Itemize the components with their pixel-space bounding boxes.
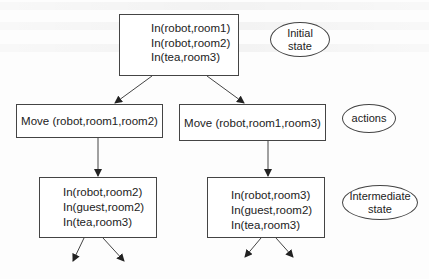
- legend-initial-label: Initial state: [287, 27, 313, 53]
- initial-state-line-3: In(tea,room3): [151, 51, 238, 64]
- edge-state1-out-right: [103, 238, 124, 261]
- edge-state2-out-right: [276, 238, 293, 257]
- intermediate-state-1-line-3: In(tea,room3): [63, 215, 156, 230]
- edge-state2-out-left: [245, 238, 261, 257]
- legend-actions: actions: [342, 104, 396, 133]
- intermediate-state-2-line-1: In(robot,room3): [231, 188, 324, 203]
- action-box-2: Move (robot,room1,room3): [179, 104, 326, 141]
- action-box-1: Move (robot,room1,room2): [16, 104, 163, 138]
- action-label-2: Move (robot,room1,room3): [184, 117, 321, 129]
- action-label-1: Move (robot,room1,room2): [21, 115, 158, 127]
- legend-intermediate-state: Intermediate state: [342, 185, 418, 220]
- initial-state-line-1: In(robot,room1): [151, 21, 238, 36]
- intermediate-state-box-2: In(robot,room3) In(guest,room2) In(tea,r…: [207, 177, 325, 238]
- legend-initial-state: Initial state: [270, 22, 330, 57]
- intermediate-state-2-line-3: In(tea,room3): [231, 218, 324, 233]
- legend-actions-label: actions: [352, 112, 387, 125]
- edge-state1-out-left: [73, 238, 84, 261]
- intermediate-state-box-1: In(robot,room2) In(guest,room2) In(tea,r…: [39, 177, 157, 238]
- edge-initial-to-action2: [207, 76, 244, 103]
- initial-state-line-2: In(robot,room2): [151, 36, 238, 51]
- intermediate-state-2-line-2: In(guest,room2): [231, 203, 324, 218]
- edge-initial-to-action1: [115, 76, 152, 103]
- intermediate-state-1-line-1: In(robot,room2): [63, 185, 156, 200]
- intermediate-state-1-line-2: In(guest,room2): [63, 200, 156, 215]
- initial-state-box: In(robot,room1) In(robot,room2) In(tea,r…: [119, 14, 239, 76]
- legend-intermediate-label: Intermediate state: [349, 190, 410, 216]
